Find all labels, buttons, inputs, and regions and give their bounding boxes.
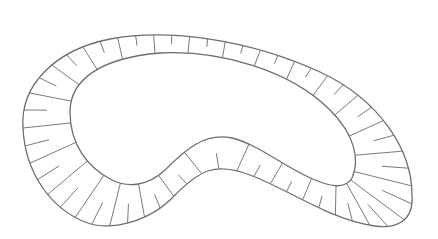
short-tick-mark bbox=[348, 203, 353, 221]
short-tick-mark bbox=[60, 188, 77, 207]
long-tick-mark bbox=[313, 76, 328, 96]
long-tick-mark bbox=[351, 180, 405, 220]
long-tick-mark bbox=[188, 37, 190, 54]
short-tick-mark bbox=[334, 85, 343, 95]
long-tick-mark bbox=[335, 186, 336, 215]
short-tick-mark bbox=[38, 166, 60, 180]
short-tick-mark bbox=[25, 140, 49, 146]
long-tick-mark bbox=[303, 179, 312, 200]
outer-boundary-curve bbox=[23, 35, 412, 227]
long-tick-mark bbox=[286, 61, 294, 79]
long-tick-mark bbox=[110, 183, 121, 226]
long-tick-mark bbox=[75, 175, 104, 217]
long-tick-mark bbox=[355, 151, 402, 155]
short-tick-mark bbox=[100, 41, 104, 52]
short-tick-mark bbox=[136, 36, 138, 46]
short-tick-mark bbox=[128, 204, 129, 223]
long-tick-mark bbox=[222, 42, 225, 58]
long-tick-mark bbox=[184, 152, 201, 174]
short-tick-mark bbox=[155, 194, 161, 208]
long-tick-mark bbox=[52, 65, 79, 85]
long-tick-mark bbox=[23, 123, 71, 128]
short-tick-mark bbox=[382, 166, 408, 168]
long-tick-mark bbox=[335, 95, 358, 115]
long-tick-mark bbox=[118, 38, 123, 60]
short-tick-mark bbox=[216, 153, 219, 169]
short-tick-mark bbox=[358, 107, 372, 117]
radial-tick-marks bbox=[23, 35, 412, 226]
long-tick-mark bbox=[30, 93, 72, 101]
long-tick-mark bbox=[349, 121, 383, 136]
short-tick-mark bbox=[254, 165, 260, 176]
kidney-band-diagram bbox=[0, 0, 438, 239]
short-tick-mark bbox=[178, 175, 187, 184]
short-tick-mark bbox=[207, 39, 208, 47]
long-tick-mark bbox=[254, 50, 260, 66]
long-tick-mark bbox=[354, 172, 411, 186]
short-tick-mark bbox=[374, 135, 394, 140]
short-tick-mark bbox=[92, 202, 103, 224]
long-tick-mark bbox=[347, 184, 370, 226]
long-tick-mark bbox=[83, 47, 97, 70]
long-tick-mark bbox=[139, 184, 145, 217]
short-tick-mark bbox=[368, 204, 388, 226]
long-tick-mark bbox=[237, 144, 249, 171]
short-tick-mark bbox=[39, 78, 56, 86]
short-tick-mark bbox=[287, 181, 292, 191]
short-tick-mark bbox=[382, 190, 412, 204]
inner-boundary-curve bbox=[70, 53, 356, 186]
short-tick-mark bbox=[305, 68, 311, 77]
short-tick-mark bbox=[275, 55, 278, 63]
long-tick-mark bbox=[30, 142, 76, 163]
short-tick-mark bbox=[67, 55, 77, 66]
long-tick-mark bbox=[154, 35, 155, 53]
short-tick-mark bbox=[241, 46, 243, 54]
long-tick-mark bbox=[48, 161, 88, 194]
short-tick-mark bbox=[319, 196, 322, 208]
long-tick-mark bbox=[270, 163, 282, 184]
long-tick-mark bbox=[159, 175, 174, 196]
